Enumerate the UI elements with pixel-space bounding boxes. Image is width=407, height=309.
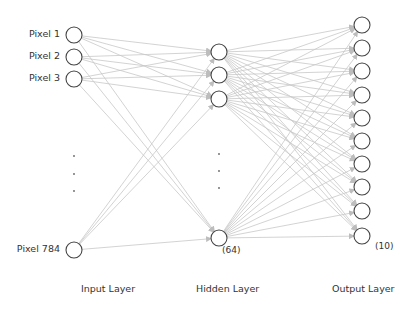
ellipsis-dot <box>73 190 75 192</box>
connection-edge <box>226 145 356 233</box>
connection-edge <box>225 123 356 233</box>
input-node-label: Pixel 3 <box>0 72 60 83</box>
hidden-node <box>211 230 227 246</box>
hidden-node <box>211 91 227 107</box>
neural-network-diagram <box>0 0 407 309</box>
connection-edge <box>227 236 354 238</box>
ellipsis-dot <box>73 155 75 157</box>
input-node <box>66 242 82 258</box>
output-node <box>354 203 370 219</box>
connection-edge <box>82 58 211 74</box>
ellipsis-dot <box>218 187 220 189</box>
neuron-nodes <box>66 17 370 258</box>
input-node <box>66 49 82 65</box>
output-node <box>354 40 370 56</box>
connection-edge <box>227 49 354 73</box>
hidden-count-label: (64) <box>222 245 240 255</box>
connection-edge <box>80 105 214 244</box>
connection-edge <box>82 37 212 73</box>
connection-edge <box>79 42 215 232</box>
connection-edge <box>79 63 214 232</box>
hidden-layer-label: Hidden Layer <box>196 283 259 294</box>
input-node-label: Pixel 784 <box>0 243 60 254</box>
output-node <box>354 179 370 195</box>
connection-edge <box>82 53 211 77</box>
hidden-node <box>211 44 227 60</box>
connection-edge <box>82 52 211 56</box>
input-node-label: Pixel 1 <box>0 28 60 39</box>
connection-edge <box>227 51 355 97</box>
connection-edge <box>227 28 355 73</box>
output-node <box>354 156 370 172</box>
hidden-node <box>211 67 227 83</box>
output-node <box>354 133 370 149</box>
output-layer-label: Output Layer <box>332 283 395 294</box>
connection-edge <box>82 239 211 250</box>
connection-edge <box>224 58 357 229</box>
ellipsis-dot <box>218 153 220 155</box>
output-node <box>354 228 370 244</box>
output-count-label: (10) <box>375 241 393 251</box>
input-layer-label: Input Layer <box>81 283 135 294</box>
connection-edge <box>79 58 215 243</box>
connection-edge <box>227 190 355 236</box>
input-node <box>66 27 82 43</box>
connection-edge <box>224 54 357 231</box>
output-node <box>354 17 370 33</box>
output-node <box>354 110 370 126</box>
connection-edge <box>82 36 211 51</box>
output-node <box>354 63 370 79</box>
input-node <box>66 71 82 87</box>
ellipsis-dot <box>218 170 220 172</box>
output-node <box>354 87 370 103</box>
connection-edge <box>81 38 211 96</box>
connection-edge <box>224 77 357 232</box>
input-node-label: Pixel 2 <box>0 50 60 61</box>
connection-edge <box>79 81 214 244</box>
connection-edge <box>79 85 213 232</box>
ellipsis-dot <box>73 173 75 175</box>
